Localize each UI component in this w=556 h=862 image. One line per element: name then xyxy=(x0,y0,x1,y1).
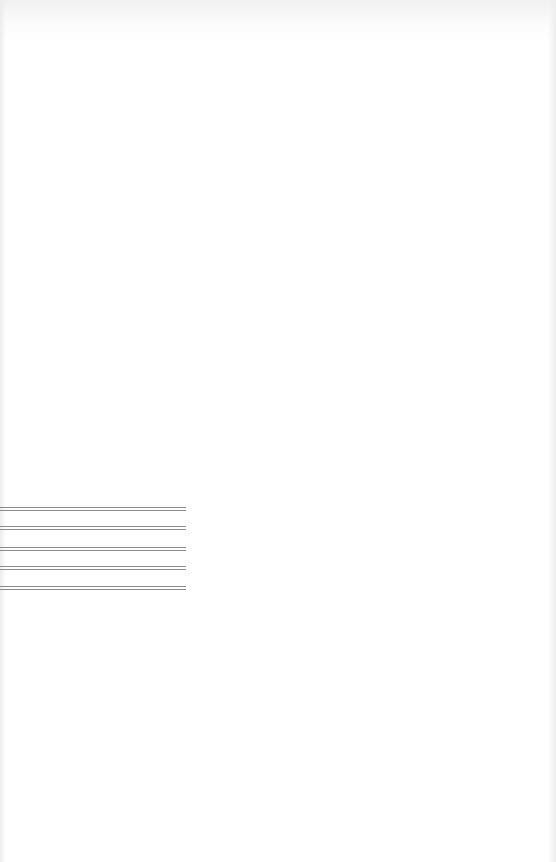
ruled-line xyxy=(0,586,186,590)
ruled-line xyxy=(0,526,186,530)
page-edge-shadow-right xyxy=(548,0,556,862)
scanned-page xyxy=(0,0,556,862)
ruled-line xyxy=(0,507,186,511)
ruled-line xyxy=(0,547,186,551)
ruled-line xyxy=(0,566,186,570)
page-edge-shadow-left xyxy=(0,0,6,862)
